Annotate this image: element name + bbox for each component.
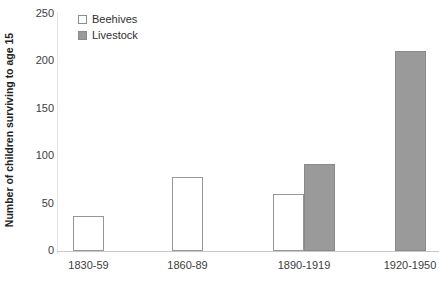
plot-area	[57, 14, 439, 251]
filled-square-swatch-icon	[78, 31, 87, 40]
legend-item-label: Livestock	[92, 30, 138, 41]
y-axis-tick-label: 250	[8, 8, 54, 19]
x-axis-tick-label: 1830-59	[39, 259, 139, 271]
y-axis-tick-labels: 050100150200250	[8, 0, 54, 283]
y-axis-tick-label: 50	[8, 198, 54, 209]
y-axis-tick-label: 100	[8, 150, 54, 161]
bar-livestock	[304, 164, 335, 251]
y-axis-tick-label: 200	[8, 55, 54, 66]
legend-item-label: Beehives	[92, 14, 137, 25]
x-axis-line	[57, 251, 439, 252]
bar-beehives	[73, 216, 104, 251]
y-axis-tick-label: 0	[8, 245, 54, 256]
x-axis-tick-label: 1920-1950	[360, 259, 439, 271]
chart-legend: BeehivesLivestock	[78, 14, 138, 41]
x-axis-tick-label: 1890-1919	[254, 259, 354, 271]
open-square-swatch-icon	[78, 15, 87, 24]
legend-item: Beehives	[78, 14, 138, 25]
bar-beehives	[273, 194, 304, 251]
bar-livestock	[395, 51, 426, 251]
legend-item: Livestock	[78, 30, 138, 41]
y-axis-tick-label: 150	[8, 103, 54, 114]
x-axis-tick-label: 1860-89	[138, 259, 238, 271]
bar-chart: Number of children surviving to age 15 0…	[0, 0, 439, 283]
bar-beehives	[172, 177, 203, 251]
